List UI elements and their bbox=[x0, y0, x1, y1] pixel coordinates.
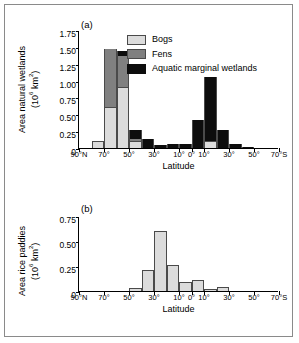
bar-segment bbox=[104, 49, 117, 107]
legend-label-fens: Fens bbox=[152, 50, 172, 59]
panel-a-x-axis-title: Latitude bbox=[79, 161, 278, 171]
x-tick-label: 30° bbox=[223, 294, 234, 302]
bar-segment bbox=[167, 265, 180, 291]
x-tick-label: 30° bbox=[148, 294, 159, 302]
panel-b-y-axis-title-line1: Area rice paddies bbox=[17, 226, 27, 296]
bar bbox=[192, 120, 205, 148]
panel-b-y-axis-title: Area rice paddies (106 km2) bbox=[17, 209, 41, 313]
legend-item-bogs: Bogs bbox=[127, 34, 257, 45]
x-tick-label: 70°S bbox=[271, 151, 287, 159]
figure-frame: Area natural wetlands (106 km2) (a) 00.2… bbox=[4, 4, 293, 337]
bar-segment bbox=[129, 288, 142, 291]
legend-item-aquatic-marginal-wetlands: Aquatic marginal wetlands bbox=[127, 63, 257, 74]
legend-label-aquatic-marginal-wetlands: Aquatic marginal wetlands bbox=[152, 64, 257, 73]
panel-b-bars bbox=[79, 217, 278, 291]
legend-swatch-aquatic-marginal-wetlands bbox=[127, 64, 146, 74]
bar bbox=[142, 139, 155, 148]
bar bbox=[217, 130, 230, 148]
bar bbox=[92, 141, 105, 148]
panel-a-label: (a) bbox=[81, 19, 93, 30]
panel-b-label: (b) bbox=[81, 203, 93, 214]
bar bbox=[154, 231, 167, 291]
panel-a: Area natural wetlands (106 km2) (a) 00.2… bbox=[5, 5, 294, 195]
y-tick-mark bbox=[76, 267, 80, 268]
bar bbox=[179, 144, 192, 148]
y-tick-mark bbox=[76, 82, 80, 83]
x-tick-label: 10° bbox=[173, 151, 184, 159]
bar bbox=[179, 282, 192, 291]
bar-segment bbox=[217, 287, 230, 291]
bar-segment bbox=[129, 130, 142, 139]
bar-segment bbox=[154, 145, 167, 148]
y-tick-mark bbox=[76, 217, 80, 218]
bar-segment bbox=[104, 107, 117, 148]
x-tick-label: 50° bbox=[123, 151, 134, 159]
bar bbox=[129, 130, 142, 148]
bar-segment bbox=[204, 289, 217, 291]
x-tick-label: 30° bbox=[223, 151, 234, 159]
y-tick-mark bbox=[76, 115, 80, 116]
panel-b-plot-area: 00.250.500.75 90°N70°50°30°10°0°10°30°50… bbox=[78, 217, 278, 292]
bar bbox=[242, 147, 255, 148]
panel-a-y-axis-title-line1: Area natural wetlands bbox=[17, 45, 27, 132]
bar-segment bbox=[179, 282, 192, 291]
bar bbox=[154, 145, 167, 148]
bar-segment bbox=[217, 130, 230, 148]
x-tick-label: 0° bbox=[188, 151, 195, 159]
panel-b-x-axis-title: Latitude bbox=[79, 304, 278, 314]
bar bbox=[104, 49, 117, 148]
bar-segment bbox=[192, 280, 205, 291]
x-tick-label: 90°N bbox=[71, 294, 88, 302]
bar bbox=[129, 288, 142, 291]
x-tick-label: 30° bbox=[148, 151, 159, 159]
bar-segment bbox=[204, 77, 217, 140]
x-tick-label: 70° bbox=[98, 294, 109, 302]
bar-segment bbox=[154, 231, 167, 291]
panel-a-y-axis-title-line2: (106 km2) bbox=[27, 29, 40, 149]
x-tick-label: 50° bbox=[123, 294, 134, 302]
y-tick-mark bbox=[76, 98, 80, 99]
bar bbox=[204, 77, 217, 148]
bar bbox=[142, 270, 155, 291]
legend-item-fens: Fens bbox=[127, 49, 257, 60]
legend-label-bogs: Bogs bbox=[152, 35, 173, 44]
y-tick-mark bbox=[76, 242, 80, 243]
bar-segment bbox=[92, 141, 105, 148]
bar-segment bbox=[229, 144, 242, 148]
x-tick-label: 70°S bbox=[271, 294, 287, 302]
y-tick-mark bbox=[76, 48, 80, 49]
y-tick-mark bbox=[76, 65, 80, 66]
x-tick-label: 90°N bbox=[71, 151, 88, 159]
x-tick-label: 0° bbox=[188, 294, 195, 302]
bar bbox=[229, 144, 242, 148]
bar-segment bbox=[142, 270, 155, 291]
bar-segment bbox=[142, 139, 155, 148]
x-tick-label: 70° bbox=[98, 151, 109, 159]
bar-segment bbox=[129, 139, 142, 141]
bar-segment bbox=[117, 87, 130, 148]
bar-segment bbox=[192, 120, 205, 148]
x-tick-label: 10° bbox=[173, 294, 184, 302]
bar-segment bbox=[167, 144, 180, 148]
x-tick-label: 10° bbox=[198, 294, 209, 302]
panel-a-plot-area: 00.250.500.751.001.251.501.75 90°N70°50°… bbox=[78, 31, 278, 149]
bar-segment bbox=[129, 141, 142, 148]
bar-segment bbox=[242, 147, 255, 148]
bar bbox=[192, 280, 205, 291]
bar-segment bbox=[179, 144, 192, 148]
bar-segment bbox=[204, 141, 217, 148]
x-tick-label: 50° bbox=[248, 151, 259, 159]
legend-swatch-bogs bbox=[127, 35, 146, 45]
bar bbox=[167, 265, 180, 291]
x-tick-label: 10° bbox=[198, 151, 209, 159]
bar bbox=[217, 287, 230, 291]
x-tick-label: 50° bbox=[248, 294, 259, 302]
bar bbox=[167, 144, 180, 148]
legend: Bogs Fens Aquatic marginal wetlands bbox=[127, 34, 257, 78]
panel-a-y-axis-title: Area natural wetlands (106 km2) bbox=[17, 29, 41, 149]
legend-swatch-fens bbox=[127, 49, 146, 59]
panel-b: Area rice paddies (106 km2) (b) 00.250.5… bbox=[5, 195, 294, 338]
bar bbox=[204, 289, 217, 291]
panel-b-y-axis-title-line2: (106 km2) bbox=[27, 209, 40, 313]
y-tick-mark bbox=[76, 31, 80, 32]
